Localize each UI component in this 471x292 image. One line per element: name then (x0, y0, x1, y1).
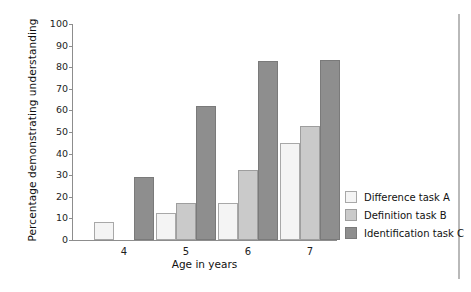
bar-taskc-age-5 (196, 106, 216, 240)
plot-area: 0102030405060708090100 4567 (72, 24, 320, 240)
bar-taskc-age-6 (258, 61, 278, 240)
legend-swatch-icon (345, 227, 357, 239)
y-tick-mark (69, 110, 73, 111)
legend-item-taskc[interactable]: Identification task C (345, 224, 465, 242)
y-tick-label: 100 (34, 19, 68, 29)
legend-item-label: Definition task B (364, 210, 447, 221)
bar-group (94, 24, 154, 240)
x-tick-label: 6 (218, 246, 278, 257)
y-tick-label: 80 (34, 62, 68, 72)
bar-taskb-age-7 (300, 126, 320, 240)
y-tick-label: 70 (34, 84, 68, 94)
y-tick-mark (69, 67, 73, 68)
bar-taskc-age-7 (320, 60, 340, 240)
bar-group (218, 24, 278, 240)
y-tick-label: 10 (34, 213, 68, 223)
bar-group (280, 24, 340, 240)
y-tick-label: 50 (34, 127, 68, 137)
y-tick-mark (69, 132, 73, 133)
bar-taskb-age-6 (238, 170, 258, 240)
y-tick-label: 20 (34, 192, 68, 202)
x-axis-line (72, 240, 337, 241)
y-tick-label: 40 (34, 149, 68, 159)
bar-taskc-age-4 (134, 177, 154, 240)
legend-item-label: Identification task C (364, 228, 464, 239)
y-tick-mark (69, 89, 73, 90)
x-axis-title: Age in years (72, 258, 337, 270)
y-tick-mark (69, 154, 73, 155)
bar-taska-age-4 (94, 222, 114, 240)
bar-taska-age-5 (156, 213, 176, 240)
chart-legend: Difference task ADefinition task BIdenti… (345, 188, 465, 242)
legend-swatch-icon (345, 209, 357, 221)
y-tick-mark (69, 175, 73, 176)
x-tick-label: 7 (280, 246, 340, 257)
x-tick-label: 5 (156, 246, 216, 257)
bar-taska-age-7 (280, 143, 300, 240)
y-tick-mark (69, 197, 73, 198)
bar-taskb-age-5 (176, 203, 196, 240)
legend-item-taskb[interactable]: Definition task B (345, 206, 465, 224)
legend-item-label: Difference task A (364, 192, 450, 203)
legend-swatch-icon (345, 191, 357, 203)
y-tick-label: 60 (34, 105, 68, 115)
legend-item-taska[interactable]: Difference task A (345, 188, 465, 206)
bar-chart-figure: Percentage demonstrating understanding 0… (0, 0, 471, 292)
y-tick-mark (69, 46, 73, 47)
y-tick-mark (69, 240, 73, 241)
y-tick-label: 30 (34, 170, 68, 180)
y-tick-mark (69, 24, 73, 25)
y-tick-mark (69, 218, 73, 219)
y-tick-label: 0 (34, 235, 68, 245)
bar-taska-age-6 (218, 203, 238, 240)
y-tick-label: 90 (34, 41, 68, 51)
bar-group (156, 24, 216, 240)
x-tick-label: 4 (94, 246, 154, 257)
